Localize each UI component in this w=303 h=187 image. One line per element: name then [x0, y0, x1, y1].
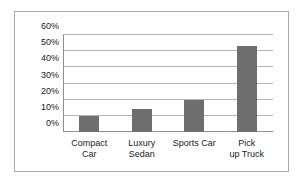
- y-axis-tick-label: 0%: [46, 119, 59, 128]
- bar-series: Compact CarLuxury SedanSports CarPick up…: [63, 35, 273, 132]
- bar-group: Pick up Truck: [221, 35, 274, 132]
- y-axis-tick-label: 30%: [41, 70, 59, 79]
- bar-group: Sports Car: [168, 35, 221, 132]
- bar: [237, 46, 257, 132]
- y-axis-tick-label: 50%: [41, 38, 59, 47]
- bar: [79, 116, 99, 132]
- bar: [132, 109, 152, 132]
- x-axis-tick-label: Pick up Truck: [215, 138, 279, 160]
- y-axis-tick-label: 40%: [41, 54, 59, 63]
- y-axis-tick-label: 60%: [41, 22, 59, 31]
- bar: [184, 100, 204, 132]
- bar-group: Compact Car: [63, 35, 116, 132]
- y-axis-tick-label: 10%: [41, 102, 59, 111]
- chart-frame: 0%10%20%30%40%50%60% Compact CarLuxury S…: [14, 11, 289, 172]
- plot-area: 0%10%20%30%40%50%60% Compact CarLuxury S…: [63, 35, 273, 132]
- y-axis-tick-label: 20%: [41, 86, 59, 95]
- bar-group: Luxury Sedan: [116, 35, 169, 132]
